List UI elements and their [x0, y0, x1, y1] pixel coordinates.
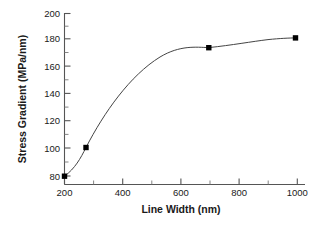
stress-gradient-line-chart: 80 100 120 140 160 180 200 200 400 600 8… [0, 0, 321, 234]
y-tick-label-80: 80 [49, 171, 60, 182]
data-point-700 [206, 45, 211, 50]
y-axis-title: Stress Gradient (MPa/nm) [16, 35, 28, 163]
chart-figure: 80 100 120 140 160 180 200 200 400 600 8… [0, 0, 321, 234]
data-point-280 [83, 145, 88, 150]
data-point-200 [62, 174, 67, 179]
y-tick-label-100: 100 [44, 143, 60, 154]
x-tick-label-400: 400 [115, 187, 131, 198]
y-tick-label-200: 200 [44, 8, 60, 19]
y-tick-label-120: 120 [44, 115, 60, 126]
x-tick-label-1000: 1000 [287, 187, 308, 198]
data-point-995 [293, 35, 298, 40]
y-tick-label-160: 160 [44, 61, 60, 72]
y-tick-label-180: 180 [44, 33, 60, 44]
x-tick-label-800: 800 [231, 187, 247, 198]
x-tick-label-600: 600 [173, 187, 189, 198]
x-axis-title: Line Width (nm) [141, 203, 220, 215]
y-tick-label-140: 140 [44, 88, 60, 99]
x-tick-label-200: 200 [57, 187, 73, 198]
